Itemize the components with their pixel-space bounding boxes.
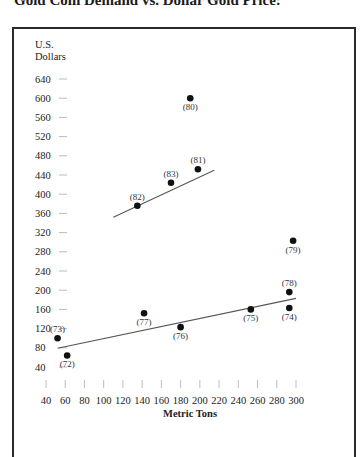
x-tick-label: 280 [269, 395, 285, 406]
data-point [54, 335, 61, 342]
y-tick-label: 560 [35, 112, 51, 123]
point-label: (72) [60, 359, 75, 369]
y-tick-label: 360 [35, 208, 51, 219]
point-label: (83) [164, 169, 179, 179]
x-tick-label: 200 [192, 395, 208, 406]
y-axis-label-line: U.S. [35, 39, 54, 50]
y-tick-label: 640 [35, 74, 51, 85]
point-label: (74) [282, 312, 297, 322]
x-tick-label: 40 [41, 395, 52, 406]
x-tick-label: 220 [211, 395, 227, 406]
x-tick-label: 160 [154, 395, 170, 406]
y-tick-label: 280 [35, 246, 51, 257]
data-point [290, 237, 297, 244]
y-tick-label: 120 [35, 323, 51, 334]
point-label: (76) [173, 331, 188, 341]
x-tick-label: 60 [60, 395, 71, 406]
x-tick-label: 140 [134, 395, 150, 406]
x-tick-label: 180 [173, 395, 189, 406]
y-tick-label: 160 [35, 304, 51, 315]
y-tick-label: 240 [35, 266, 51, 277]
point-label: (78) [282, 278, 297, 288]
trend-lines [58, 170, 296, 348]
data-point [168, 179, 175, 186]
y-tick-label: 520 [35, 131, 51, 142]
data-point [286, 305, 293, 312]
y-tick-label: 40 [35, 362, 46, 373]
x-axis-label: Metric Tons [163, 408, 217, 419]
y-tick-label: 80 [35, 342, 46, 353]
x-tick-label: 240 [230, 395, 246, 406]
data-point [187, 95, 194, 102]
y-tick-label: 480 [35, 150, 51, 161]
point-label: (73) [50, 324, 65, 334]
point-label: (75) [243, 313, 258, 323]
data-point [134, 202, 141, 209]
y-axis-label: U.S.Dollars [35, 39, 66, 62]
x-tick-label: 260 [250, 395, 266, 406]
y-tick-label: 440 [35, 170, 51, 181]
data-points: (72)(73)(74)(75)(76)(77)(78)(79)(80)(81)… [50, 95, 301, 370]
y-tick-label: 600 [35, 93, 51, 104]
point-label: (81) [190, 155, 205, 165]
y-tick-label: 400 [35, 189, 51, 200]
x-tick-label: 100 [96, 395, 112, 406]
data-point [195, 166, 202, 173]
y-axis-label-line: Dollars [35, 51, 66, 62]
x-tick-label: 300 [288, 395, 304, 406]
data-point [286, 289, 293, 296]
x-axis: 406080100120140160180200220240260280300 [41, 380, 304, 406]
x-tick-label: 80 [79, 395, 90, 406]
data-point [141, 310, 148, 317]
y-tick-label: 320 [35, 227, 51, 238]
y-tick-label: 200 [35, 285, 51, 296]
data-point [64, 352, 71, 359]
point-label: (82) [130, 192, 145, 202]
point-label: (80) [183, 102, 198, 112]
point-label: (79) [286, 245, 301, 255]
x-tick-label: 120 [115, 395, 131, 406]
point-label: (77) [137, 317, 152, 327]
data-point [177, 324, 184, 331]
data-point [248, 306, 255, 313]
